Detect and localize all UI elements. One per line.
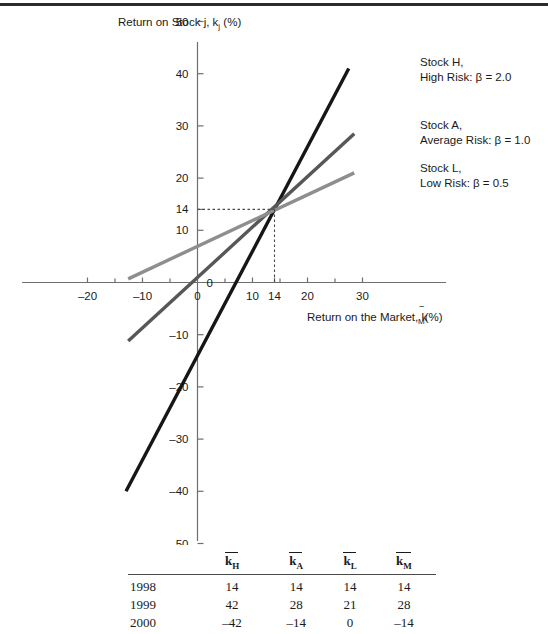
series-annotation-line1: Stock A, <box>420 119 462 131</box>
series-line <box>126 68 349 491</box>
security-market-line-chart: –20–100101420305040302014100–10–20–30–40… <box>0 0 548 545</box>
y-tick-label: 20 <box>176 172 189 184</box>
y-tick-label: 0 <box>207 277 213 289</box>
table-cell-value: 28 <box>264 596 328 614</box>
table-row: 199814141414 <box>128 574 436 596</box>
series-annotation-line1: Stock L, <box>420 162 462 174</box>
table-cell-value: 14 <box>328 574 372 596</box>
table-cell-value: 14 <box>264 574 328 596</box>
table-cell-value: 21 <box>328 596 372 614</box>
x-axis-title: Return on the Market, k‾M(%) <box>307 305 443 326</box>
table-cell-value: –14 <box>264 614 328 632</box>
returns-data-table: kH kA kL kM 1998141414141999422821282000… <box>128 552 436 632</box>
table-cell-value: 0 <box>328 614 372 632</box>
y-tick-label: –50 <box>169 538 188 546</box>
chart-svg: –20–100101420305040302014100–10–20–30–40… <box>0 0 548 545</box>
y-tick-label: 14 <box>176 203 189 215</box>
table-header-kh: kH <box>200 552 264 574</box>
table-body: 1998141414141999422821282000–42–140–14 <box>128 574 436 632</box>
y-tick-label: –30 <box>169 433 188 445</box>
series-group <box>126 68 354 491</box>
table-cell-value: 14 <box>200 574 264 596</box>
returns-table: kH kA kL kM 1998141414141999422821282000… <box>128 552 436 632</box>
x-tick-label: –10 <box>133 290 152 302</box>
series-annotation-line2: Low Risk: β = 0.5 <box>420 177 509 189</box>
y-tick-label: 40 <box>176 68 189 80</box>
table-cell-value: 14 <box>372 574 436 596</box>
series-annotation-line1: Stock H, <box>420 56 463 68</box>
y-axis-title: Return on Stock j, kj (%) <box>118 16 241 31</box>
table-cell-value: 42 <box>200 596 264 614</box>
y-tick-label: 10 <box>176 224 189 236</box>
table-header-row: kH kA kL kM <box>128 552 436 574</box>
series-line <box>128 134 354 341</box>
x-tick-label: 0 <box>194 290 200 302</box>
table-cell-year: 2000 <box>128 614 200 632</box>
y-tick-group: 5040302014100–10–20–30–40–50 <box>169 16 213 546</box>
y-tick-label: –10 <box>169 329 188 341</box>
table-cell-value: 28 <box>372 596 436 614</box>
table-header-km: kM <box>372 552 436 574</box>
table-header-ka: kA <box>264 552 328 574</box>
x-tick-label: 10 <box>246 290 259 302</box>
table-row: 199942282128 <box>128 596 436 614</box>
table-cell-year: 1999 <box>128 596 200 614</box>
table-header: kH kA kL kM <box>128 552 436 574</box>
x-tick-label: 20 <box>301 290 314 302</box>
intersection-guides <box>198 209 275 282</box>
table-header-kl: kL <box>328 552 372 574</box>
series-annotation-line2: High Risk: β = 2.0 <box>420 71 511 83</box>
x-tick-label: 14 <box>268 290 281 302</box>
y-tick-label: 30 <box>176 120 189 132</box>
table-cell-value: –14 <box>372 614 436 632</box>
x-tick-group: –20–10010142030 <box>78 278 369 302</box>
series-line <box>128 173 354 279</box>
annotation-group: Stock H,High Risk: β = 2.0Stock A,Averag… <box>420 56 530 189</box>
series-annotation-line2: Average Risk: β = 1.0 <box>420 134 530 146</box>
y-tick-label: –40 <box>169 485 188 497</box>
x-tick-label: –20 <box>78 290 97 302</box>
x-tick-label: 30 <box>356 290 369 302</box>
table-cell-value: –42 <box>200 614 264 632</box>
table-cell-year: 1998 <box>128 574 200 596</box>
table-header-year <box>128 552 200 574</box>
table-row: 2000–42–140–14 <box>128 614 436 632</box>
